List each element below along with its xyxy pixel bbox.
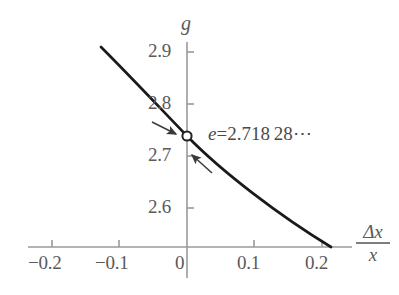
y-tick-label-2-8: 2.8 [148, 92, 171, 114]
chart-canvas [0, 0, 399, 295]
e-point-marker [182, 131, 191, 140]
x-axis-label-numerator: Δx [356, 222, 390, 241]
data-curve [101, 47, 331, 247]
y-tick-label-2-7: 2.7 [148, 144, 171, 166]
x-tick-label-0: 0 [175, 252, 184, 274]
x-tick-label-0-2: 0.2 [305, 252, 328, 274]
e-value-text: =2.718 28⋯ [216, 123, 311, 144]
y-tick-label-2-9: 2.9 [148, 40, 171, 62]
x-tick-label-neg-0-1: −0.1 [95, 252, 129, 274]
x-tick-label-neg-0-2: −0.2 [28, 252, 62, 274]
x-axis-label: Δx x [356, 222, 390, 264]
y-axis-label: g [181, 12, 191, 35]
x-axis-label-denominator: x [356, 245, 390, 264]
annotation-arrow-upper-left [152, 122, 176, 134]
x-tick-label-0-1: 0.1 [237, 252, 260, 274]
y-axis-ticks [187, 52, 194, 208]
y-tick-label-2-6: 2.6 [148, 196, 171, 218]
e-value-annotation: e=2.718 28⋯ [208, 122, 312, 145]
chart-figure: g 2.9 2.8 2.7 2.6 −0.2 −0.1 0 0.1 0.2 Δx… [0, 0, 399, 295]
